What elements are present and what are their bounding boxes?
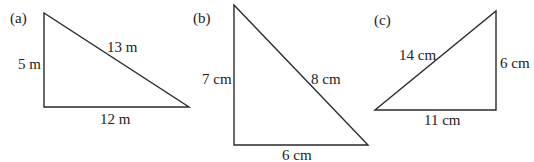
triangle-b xyxy=(234,5,368,145)
triangle-b-label: (b) xyxy=(193,10,211,26)
triangle-a xyxy=(44,13,189,107)
triangles-diagram xyxy=(0,0,534,162)
triangle-a-vertical-side: 5 m xyxy=(18,56,41,72)
triangle-b-hypotenuse: 8 cm xyxy=(311,71,341,87)
triangle-c-hypotenuse: 14 cm xyxy=(399,47,436,63)
triangle-a-label: (a) xyxy=(10,10,27,26)
triangle-b-base: 6 cm xyxy=(282,147,312,162)
triangle-c-label: (c) xyxy=(374,12,391,28)
triangle-a-hypotenuse: 13 m xyxy=(107,39,137,55)
triangle-b-vertical-side: 7 cm xyxy=(202,71,232,87)
triangle-a-base: 12 m xyxy=(100,111,130,127)
triangle-c-vertical-side: 6 cm xyxy=(500,55,530,71)
triangle-c-base: 11 cm xyxy=(424,112,461,128)
